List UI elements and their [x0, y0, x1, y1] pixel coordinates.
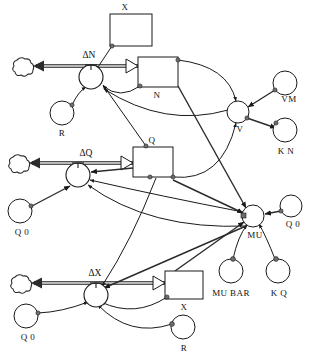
handle-q-top	[144, 144, 148, 148]
label-stock-x-bottom: X	[181, 302, 188, 312]
cloud-sink-q	[9, 155, 30, 174]
link-q0a-to-deltaq	[32, 186, 70, 206]
stock-q[interactable]	[133, 147, 173, 177]
label-aux-q0-lower-left: Q 0	[21, 332, 36, 342]
link-n-to-v	[178, 60, 236, 101]
link-q-to-deltax	[102, 178, 156, 286]
aux-kq[interactable]	[266, 259, 290, 283]
flow-arrowhead-delta-q	[29, 158, 40, 169]
label-aux-r-bottom: R	[181, 343, 187, 353]
handle-v	[245, 116, 249, 120]
aux-q0-lower-left[interactable]	[14, 304, 38, 328]
link-q0c-to-deltax	[38, 302, 88, 313]
handle-x-top	[110, 44, 114, 48]
handle-r-bottom	[170, 322, 175, 327]
link-q0right-to-mu	[265, 211, 281, 214]
link-mu-lower-to-deltaq	[88, 185, 247, 226]
flow-arrowhead-delta-n	[33, 61, 44, 72]
handle-r-top	[70, 103, 74, 107]
stock-n[interactable]	[138, 57, 178, 87]
label-stock-q: Q	[149, 135, 156, 145]
valve-delta-q[interactable]	[66, 163, 90, 187]
label-flow-delta-x: ΔX	[89, 268, 102, 278]
valve-delta-x[interactable]	[84, 283, 108, 307]
handle-q0-upper-left	[29, 204, 33, 208]
handle-q0-right	[279, 209, 283, 213]
link-v-to-kn	[247, 118, 276, 128]
label-aux-r-top: R	[59, 128, 65, 138]
handle-vm	[273, 88, 277, 92]
handle-q-bottom	[148, 175, 152, 179]
link-q-to-v	[173, 123, 236, 177]
label-flow-delta-n: ΔN	[83, 50, 96, 60]
cloud-sink-n	[13, 58, 34, 77]
handle-n-left	[138, 84, 142, 88]
label-aux-mu: MU	[247, 230, 262, 240]
flow-arrowhead-delta-x	[31, 278, 42, 289]
aux-q0-right[interactable]	[280, 195, 302, 217]
stock-flow-diagram: X N Q X ΔN ΔQ ΔX R V VM K N Q 0 MU Q 0 M…	[0, 0, 315, 362]
handle-kq	[274, 257, 279, 262]
link-xbot-to-deltax	[101, 297, 167, 309]
aux-q0-upper-left[interactable]	[8, 199, 32, 223]
handle-q0-lower-left	[36, 311, 40, 315]
label-aux-v: V	[237, 124, 244, 134]
link-q-to-deltan	[103, 85, 146, 146]
handle-kn	[274, 121, 278, 125]
flow-valve-arrow-delta-x	[153, 276, 165, 290]
label-aux-q0-right: Q 0	[286, 219, 301, 229]
flow-valve-arrow-delta-n	[126, 59, 138, 73]
valve-delta-n[interactable]	[79, 65, 103, 89]
label-stock-x-top: X	[122, 2, 129, 12]
handle-mu	[241, 213, 246, 218]
label-aux-vm: VM	[281, 94, 296, 104]
link-rtop-to-deltan	[72, 87, 86, 105]
label-flow-delta-q: ΔQ	[80, 148, 93, 158]
label-aux-kn: K N	[278, 146, 295, 156]
aux-r-bottom[interactable]	[171, 315, 195, 339]
diagram-canvas: X N Q X ΔN ΔQ ΔX R V VM K N Q 0 MU Q 0 M…	[0, 0, 315, 362]
handle-mu-bar	[231, 257, 236, 262]
link-mu-to-deltaq	[90, 180, 243, 212]
handle-n-right	[176, 58, 180, 62]
stock-x-top[interactable]	[110, 14, 152, 46]
label-aux-q0-upper-left: Q 0	[15, 227, 30, 237]
label-stock-n: N	[154, 90, 161, 100]
handle-x-bottom	[165, 295, 169, 299]
aux-mu-bar[interactable]	[219, 259, 243, 283]
stock-x-bottom[interactable]	[165, 271, 203, 299]
link-q-to-deltaq	[91, 168, 133, 172]
link-vm-to-v	[248, 90, 275, 107]
label-aux-mu-bar: MU BAR	[212, 288, 250, 298]
cloud-sink-x	[11, 275, 32, 294]
handle-q-right	[171, 175, 175, 179]
label-aux-kq: K Q	[271, 288, 288, 298]
